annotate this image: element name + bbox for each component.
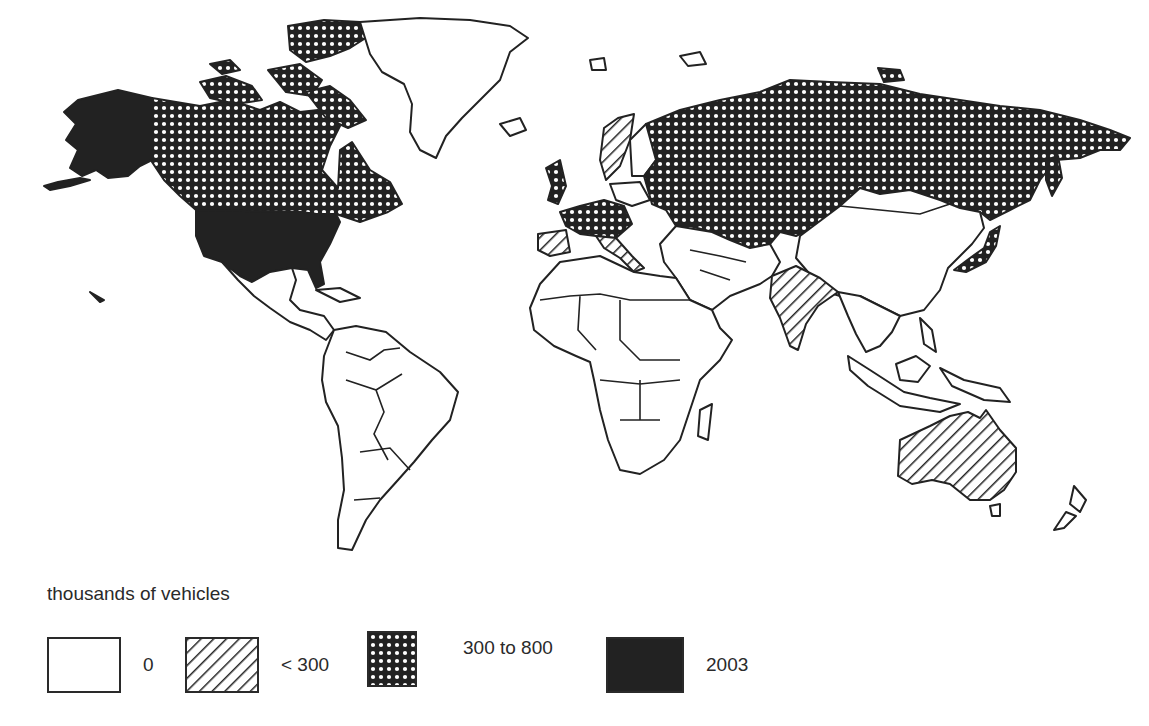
region-new-zealand [1054, 486, 1086, 530]
legend-item-2003: 2003 [606, 636, 748, 694]
region-alaska [44, 90, 152, 190]
region-sweden [600, 114, 634, 180]
legend-label: < 300 [281, 654, 329, 676]
legend-label: 2003 [706, 654, 748, 676]
legend-label: 300 to 800 [463, 637, 553, 659]
legend-item-300-to-800: 300 to 800 [367, 630, 553, 688]
world-map [0, 0, 1149, 570]
region-spain [538, 230, 570, 256]
legend-swatch-empty [47, 637, 121, 693]
legend-swatch-hatch [185, 637, 259, 693]
region-greenland [360, 18, 528, 158]
legend-label: 0 [143, 654, 154, 676]
region-canada [152, 20, 402, 222]
legend-swatch-crosshatch [367, 631, 417, 687]
region-south-america [322, 326, 458, 550]
legend-item-zero: 0 [47, 636, 154, 694]
legend-title: thousands of vehicles [47, 583, 230, 605]
region-australia [898, 410, 1016, 516]
legend-swatch-solid [606, 637, 684, 693]
legend-item-under-300: < 300 [185, 636, 329, 694]
